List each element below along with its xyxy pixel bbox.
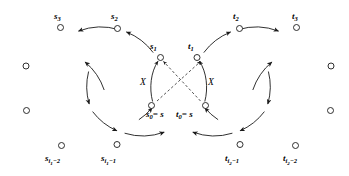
dashed-link-s0-to-t1 [157, 62, 201, 102]
label-t1: t1 [188, 42, 194, 51]
label-s0: s0= s [146, 110, 164, 119]
node-s2 [115, 26, 121, 32]
right-cycle-arcs [193, 27, 279, 136]
label-si1-minus-2: si1−2 [45, 154, 60, 163]
label-ti2-minus-1: ti2−1 [225, 154, 239, 163]
node-ti2m2 [293, 143, 299, 149]
arc-s2-to-s3 [79, 27, 120, 31]
node-si1m2 [59, 143, 65, 149]
node-si1m1 [114, 142, 120, 148]
node-s1 [158, 55, 164, 61]
crossing-dashed-links [157, 62, 201, 102]
label-ti2-minus-2: ti2−2 [283, 154, 297, 163]
arc-ti2m2-to-ti2m1 [193, 132, 233, 136]
node-s-unlabeled-1 [23, 63, 29, 69]
arc-si1m2-to-si1m1 [125, 132, 165, 136]
node-t-unlabeled-1 [328, 63, 334, 69]
arc-node-c-to-node-d [268, 72, 270, 105]
label-s1: s1 [150, 42, 157, 51]
label-t0: t0= s [176, 110, 193, 119]
node-t0 [203, 103, 209, 109]
arc-node-d-to-ti2m2 [240, 112, 264, 131]
figure-canvas: s3 s2 s1 s0= s si1−2 si1−1 t2 t3 t1 t0= … [0, 0, 349, 176]
node-s0 [149, 103, 155, 109]
arc-t1-to-t2 [204, 32, 231, 53]
node-ti2m1 [237, 142, 243, 148]
diagram-svg [0, 0, 349, 176]
node-t3 [294, 25, 300, 31]
arc-node-b-to-si1m2 [93, 112, 117, 131]
arc-t2-to-t3 [238, 27, 279, 31]
right-cycle-nodes [194, 25, 334, 149]
label-x-left: X [140, 78, 146, 88]
node-t1 [194, 55, 200, 61]
arc-node-a-to-node-b [87, 72, 89, 105]
label-s2: s2 [111, 12, 118, 21]
link-s0-to-s1-labelled-x [151, 61, 158, 101]
label-s3: s3 [54, 12, 61, 21]
label-t2: t2 [233, 12, 239, 21]
link-t0-to-t1-labelled-x [199, 61, 206, 101]
node-t-unlabeled-2 [328, 108, 334, 114]
node-s3 [58, 25, 64, 31]
node-t2 [237, 26, 243, 32]
label-t3: t3 [292, 12, 298, 21]
node-s-unlabeled-2 [24, 108, 30, 114]
label-si1-minus-1: si1−1 [101, 154, 116, 163]
dashed-link-t0-to-s1 [164, 62, 201, 102]
label-x-right: X [208, 78, 214, 88]
arc-ti2m1-to-t0 [205, 108, 218, 120]
